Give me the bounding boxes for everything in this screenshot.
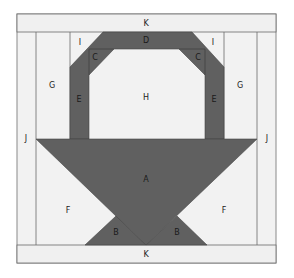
quilt-block-diagram: K K I I D C C G G E E H J J A F F B B — [0, 0, 294, 278]
label-left-strip: J — [24, 134, 27, 143]
label-top-band: K — [143, 19, 149, 28]
label-left-bottom: F — [66, 206, 71, 215]
label-left-handle: E — [76, 95, 81, 104]
label-left-inner-corner: C — [92, 53, 98, 62]
label-top-arch: D — [143, 36, 149, 45]
label-right-bottom: F — [222, 206, 227, 215]
label-center: H — [143, 93, 149, 102]
label-left-side: G — [49, 81, 55, 90]
label-right-side: G — [237, 81, 243, 90]
label-right-inner-corner: C — [195, 53, 201, 62]
label-left-base-triangle: B — [113, 228, 119, 237]
label-right-base-triangle: B — [174, 228, 180, 237]
label-basket: A — [143, 175, 149, 184]
label-bottom-band: K — [143, 250, 149, 259]
label-right-corner-top: I — [212, 38, 214, 47]
label-left-corner-top: I — [79, 38, 81, 47]
label-right-handle: E — [211, 95, 216, 104]
label-right-strip: J — [265, 134, 268, 143]
